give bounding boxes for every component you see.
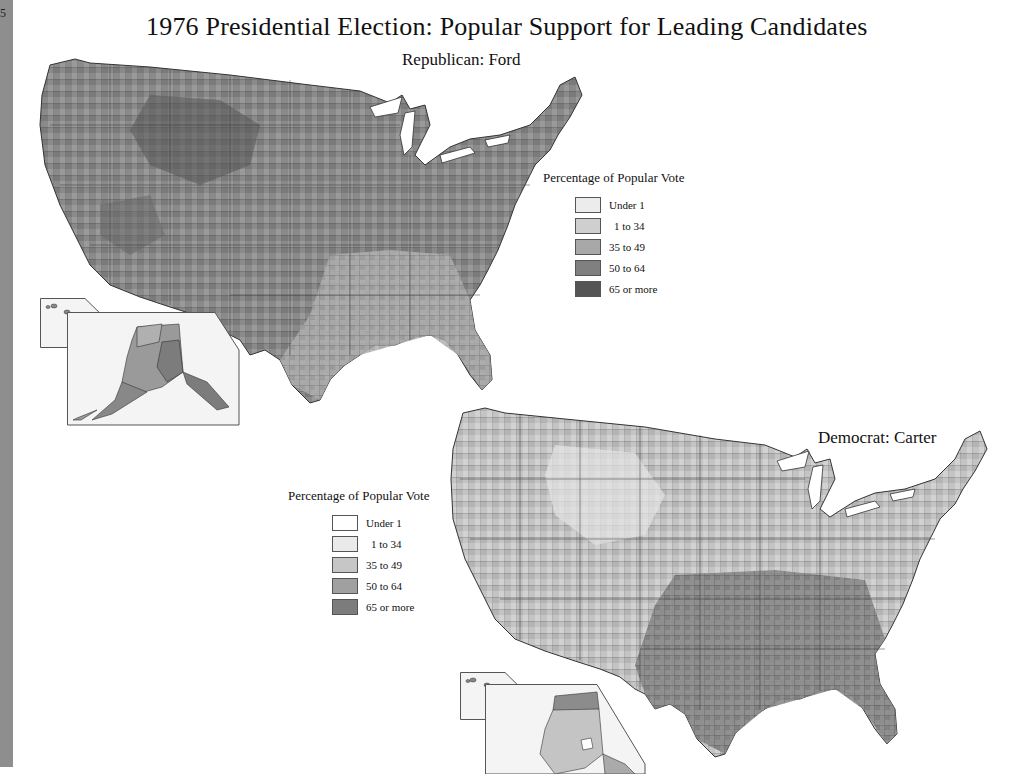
legend-label: 1 to 34 [609,220,645,232]
carter-legend-item: Under 1 [332,512,429,533]
carter-legend-title: Percentage of Popular Vote [288,488,429,504]
page-spine: 5 [0,0,13,767]
legend-swatch [575,281,601,297]
legend-swatch [332,515,358,531]
legend-swatch [332,536,358,552]
carter-legend-item: 1 to 34 [332,533,429,554]
carter-legend-item: 35 to 49 [332,554,429,575]
carter-legend-item: 65 or more [332,596,429,617]
ford-legend-title: Percentage of Popular Vote [543,170,684,186]
legend-swatch [332,578,358,594]
legend-swatch [575,197,601,213]
legend-label: 50 to 64 [366,580,402,592]
legend-swatch [575,239,601,255]
legend-swatch [332,557,358,573]
ford-alaska-inset [67,312,247,432]
ford-legend: Percentage of Popular Vote Under 1 1 to … [543,170,684,299]
legend-label: 35 to 49 [366,559,402,571]
carter-legend-item: 50 to 64 [332,575,429,596]
legend-label: 65 or more [609,283,657,295]
legend-label: 1 to 34 [366,538,402,550]
page-title: 1976 Presidential Election: Popular Supp… [146,12,868,42]
legend-swatch [332,599,358,615]
carter-legend: Percentage of Popular Vote Under 1 1 to … [288,488,429,617]
legend-label: 35 to 49 [609,241,645,253]
legend-swatch [575,218,601,234]
legend-label: 50 to 64 [609,262,645,274]
legend-swatch [575,260,601,276]
ford-legend-item: 50 to 64 [575,257,684,278]
page-number: 5 [0,6,6,21]
ford-legend-item: 65 or more [575,278,684,299]
legend-label: 65 or more [366,601,414,613]
ford-legend-item: 1 to 34 [575,215,684,236]
legend-label: Under 1 [609,199,645,211]
carter-alaska-inset [485,684,665,774]
legend-label: Under 1 [366,517,402,529]
ford-legend-item: 35 to 49 [575,236,684,257]
ford-legend-item: Under 1 [575,194,684,215]
